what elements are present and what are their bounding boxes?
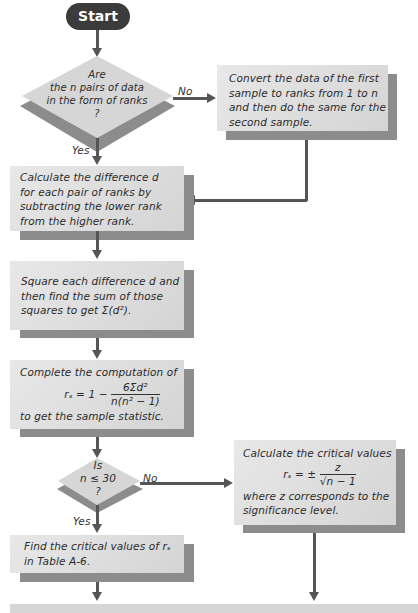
compute-outro: to get the sample statistic. bbox=[20, 409, 184, 424]
decision2-yes-label: Yes bbox=[73, 514, 91, 529]
connector-decision1-no bbox=[173, 97, 209, 100]
decision2-line: n ≤ 30 bbox=[70, 472, 126, 485]
connector-convert-left bbox=[194, 199, 307, 202]
start-terminal: Start bbox=[66, 3, 130, 30]
formula-fraction: z √n − 1 bbox=[320, 461, 356, 488]
connector-start-to-decision1 bbox=[96, 30, 99, 50]
decision2-line: ? bbox=[70, 485, 126, 498]
critical-calc-box: Calculate the critical values rₛ = ± z √… bbox=[234, 440, 396, 525]
formula-lhs: rₛ = ± bbox=[283, 467, 316, 479]
connector-decision2-no bbox=[140, 482, 226, 485]
difference-line: Calculate the difference d bbox=[20, 170, 184, 185]
connector-critical-down bbox=[313, 533, 316, 593]
difference-line: from the higher rank. bbox=[20, 214, 184, 229]
decision1-line: ? bbox=[30, 107, 164, 120]
difference-line: subtracting the lower rank bbox=[20, 199, 184, 214]
compute-box: Complete the computation of rₛ = 1 − 6Σd… bbox=[10, 360, 184, 429]
formula-fraction: 6Σd² n(n² − 1) bbox=[111, 381, 160, 408]
square-box: Square each difference d and then find t… bbox=[10, 261, 184, 330]
formula-lhs: rₛ = 1 − bbox=[64, 387, 107, 399]
formula-numerator: 6Σd² bbox=[111, 381, 160, 395]
formula-denominator: √n − 1 bbox=[320, 475, 356, 488]
arrowhead-right bbox=[224, 478, 233, 488]
decision1-yes-label: Yes bbox=[72, 143, 90, 158]
table-line: Find the critical values of rₛ bbox=[24, 539, 184, 554]
square-line: squares to get Σ(d²). bbox=[21, 303, 184, 318]
decision2-line: Is bbox=[70, 459, 126, 472]
critical-formula: rₛ = ± z √n − 1 bbox=[243, 461, 396, 488]
arrowhead-down bbox=[92, 350, 102, 359]
table-box: Find the critical values of rₛ in Table … bbox=[10, 535, 184, 573]
compute-intro: Complete the computation of bbox=[20, 365, 184, 380]
critical-outro-line: significance level. bbox=[243, 503, 396, 518]
arrowhead-down bbox=[309, 592, 319, 601]
decision1-text: Are the n pairs of data in the form of r… bbox=[30, 68, 164, 120]
difference-line: for each pair of ranks by bbox=[20, 185, 184, 200]
decision1-line: in the form of ranks bbox=[30, 94, 164, 107]
decision1-line: the n pairs of data bbox=[30, 81, 164, 94]
convert-line: Convert the data of the first bbox=[229, 71, 388, 86]
decision2-text: Is n ≤ 30 ? bbox=[70, 459, 126, 498]
next-step-box-partial bbox=[10, 604, 418, 613]
arrowhead-down bbox=[92, 524, 102, 533]
arrowhead-down bbox=[92, 592, 102, 601]
connector-decision2-yes bbox=[96, 505, 99, 525]
arrowhead-right bbox=[207, 93, 216, 103]
critical-outro-line: where z corresponds to the bbox=[243, 489, 396, 504]
formula-numerator: z bbox=[320, 461, 356, 475]
convert-box: Convert the data of the first sample to … bbox=[217, 65, 388, 131]
connector-difference-to-square bbox=[96, 231, 99, 251]
convert-line: second sample. bbox=[229, 115, 388, 130]
decision1-line: Are bbox=[30, 68, 164, 81]
connector-convert-down bbox=[305, 140, 308, 201]
square-line: then find the sum of those bbox=[21, 289, 184, 304]
square-line: Square each difference d and bbox=[21, 274, 184, 289]
critical-intro: Calculate the critical values bbox=[243, 446, 396, 461]
arrowhead-down bbox=[92, 250, 102, 259]
rs-formula: rₛ = 1 − 6Σd² n(n² − 1) bbox=[20, 381, 184, 408]
convert-line: sample to ranks from 1 to n bbox=[229, 86, 388, 101]
table-line: in Table A-6. bbox=[24, 554, 184, 569]
formula-denominator: n(n² − 1) bbox=[111, 395, 160, 408]
difference-box: Calculate the difference d for each pair… bbox=[10, 166, 184, 231]
convert-line: and then do the same for the bbox=[229, 100, 388, 115]
arrowhead-down bbox=[92, 156, 102, 165]
connector-decision1-yes bbox=[96, 138, 99, 158]
